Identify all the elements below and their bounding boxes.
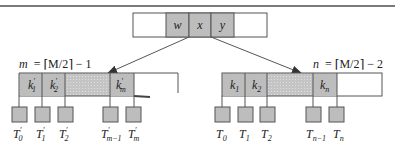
parent-key-y: y [219, 18, 226, 32]
left-size-label: m = ⌈M/2⌉ − 1 [19, 57, 92, 71]
right-subtree-label-0: T0 [216, 127, 227, 143]
left-subtree-label-m-1: T′m−1 [101, 126, 122, 143]
left-key-1: k′1 [28, 77, 36, 94]
right-size-formula: = ⌈M/2⌉ − 2 [325, 57, 383, 71]
right-subtree-label-n-1: Tn−1 [306, 127, 326, 143]
right-subtree-label-2: T2 [261, 127, 272, 143]
right-subtree-label-1: T1 [239, 127, 250, 143]
left-subtrees: T′0 T′1 T′2 T′m−1 T′m [12, 96, 141, 143]
left-size-formula: = ⌈M/2⌉ − 1 [34, 57, 92, 71]
svg-text:n = ⌈M/2⌉ − 2: n = ⌈M/2⌉ − 2 [313, 57, 383, 71]
right-subtree-box-n-1 [306, 107, 321, 122]
left-node: k′1 k′2 k′m [19, 73, 178, 97]
right-size-var: n [313, 57, 319, 71]
left-key-2: k′2 [50, 77, 58, 94]
parent-node: w x y [133, 13, 267, 37]
right-node: k1 k2 kn [222, 73, 382, 96]
right-subtree-label-n: Tn [333, 127, 344, 143]
parent-key-x: x [196, 18, 203, 32]
left-subtree-box-m [126, 107, 141, 122]
left-subtree-box-m-1 [103, 107, 118, 122]
b-tree-diagram: w x y m = ⌈M/2⌉ − 1 n = ⌈M/2⌉ − 2 [0, 0, 395, 151]
right-subtrees: T0 T1 T2 Tn−1 Tn [215, 96, 344, 143]
right-subtree-box-1 [238, 107, 253, 122]
parent-key-w: w [173, 18, 181, 32]
right-size-label: n = ⌈M/2⌉ − 2 [313, 57, 383, 71]
left-size-var: m [19, 57, 28, 71]
arrow-to-left-node [108, 37, 189, 73]
left-subtree-label-0: T′0 [13, 126, 22, 143]
right-subtree-box-0 [215, 107, 230, 122]
left-subtree-box-0 [12, 107, 27, 122]
left-subtree-label-m: T′m [128, 126, 139, 143]
left-subtree-box-2 [58, 107, 73, 122]
left-subtree-box-1 [35, 107, 50, 122]
svg-text:m = ⌈M/2⌉ − 1: m = ⌈M/2⌉ − 1 [19, 57, 92, 71]
left-subtree-label-1: T′1 [36, 126, 45, 143]
arrow-to-right-node [211, 37, 301, 73]
right-subtree-box-2 [260, 107, 275, 122]
left-subtree-label-2: T′2 [59, 126, 68, 143]
right-subtree-box-n [329, 107, 344, 122]
